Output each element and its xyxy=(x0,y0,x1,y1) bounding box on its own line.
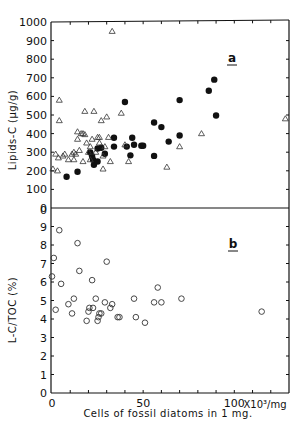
point-open-circle xyxy=(66,301,72,307)
point-open-circle xyxy=(179,296,185,302)
point-open-triangle xyxy=(82,108,88,113)
point-open-circle xyxy=(93,296,99,302)
point-filled-circle xyxy=(122,99,128,105)
point-open-triangle xyxy=(65,157,71,162)
point-filled-circle xyxy=(127,152,133,158)
point-open-triangle xyxy=(104,114,110,119)
point-open-triangle xyxy=(126,159,132,164)
point-open-circle xyxy=(84,318,90,324)
point-open-circle xyxy=(58,281,64,287)
y-tick-label-a: 100 xyxy=(26,183,47,196)
point-open-triangle xyxy=(118,110,124,115)
point-open-triangle xyxy=(106,134,112,139)
point-filled-circle xyxy=(94,158,100,164)
point-filled-circle xyxy=(140,142,146,148)
point-filled-circle xyxy=(151,153,157,159)
point-open-circle xyxy=(90,305,96,311)
y-tick-label-b: 1 xyxy=(40,369,47,382)
y-tick-label-a: 400 xyxy=(26,128,47,141)
point-open-circle xyxy=(56,227,62,233)
point-open-circle xyxy=(95,318,101,324)
point-filled-circle xyxy=(111,134,117,140)
y-tick-label-a: 900 xyxy=(26,35,47,48)
point-filled-circle xyxy=(63,174,69,180)
point-filled-circle xyxy=(213,112,219,118)
point-open-triangle xyxy=(75,136,81,141)
y-tick-label-b: 4 xyxy=(40,313,47,326)
point-filled-circle xyxy=(165,138,171,144)
point-open-circle xyxy=(51,255,57,261)
point-open-triangle xyxy=(84,140,90,145)
x-axis-title: Cells of fossil diatoms in 1 mg. xyxy=(83,408,252,419)
y-tick-label-a: 800 xyxy=(26,53,47,66)
point-open-triangle xyxy=(56,118,62,123)
y-tick-label-b: 7 xyxy=(40,258,47,271)
chart-figure: 01002003004005006007008009001000 0123456… xyxy=(0,0,306,436)
point-open-circle xyxy=(142,320,148,326)
point-filled-circle xyxy=(151,119,157,125)
point-open-triangle xyxy=(76,147,82,152)
y-tick-label-b: 3 xyxy=(40,332,47,345)
point-filled-circle xyxy=(111,143,117,149)
point-open-circle xyxy=(77,268,83,274)
point-filled-circle xyxy=(176,97,182,103)
y-axis-title-b: L-C/TOC (%) xyxy=(7,277,18,343)
point-open-triangle xyxy=(89,136,95,141)
panel-a: 01002003004005006007008009001000 xyxy=(19,16,289,215)
point-open-triangle xyxy=(98,118,104,123)
point-open-circle xyxy=(159,300,165,306)
point-open-triangle xyxy=(87,144,93,149)
y-tick-label-b: 2 xyxy=(40,350,47,363)
point-filled-circle xyxy=(158,124,164,130)
point-filled-circle xyxy=(211,76,217,82)
panel-a-top-border xyxy=(51,20,289,22)
point-open-triangle xyxy=(80,159,86,164)
point-open-triangle xyxy=(177,144,183,149)
point-open-circle xyxy=(155,285,161,291)
y-tick-label-a: 700 xyxy=(26,72,47,85)
y-tick-label-a: 200 xyxy=(26,165,47,178)
point-open-triangle xyxy=(282,116,288,121)
point-open-circle xyxy=(131,296,137,302)
y-tick-label-b: 0 xyxy=(40,204,47,217)
y-tick-label-b: 9 xyxy=(40,221,47,234)
point-filled-circle xyxy=(206,88,212,94)
y-axis-title-a: Lipids-C (μg/g) xyxy=(7,90,18,171)
point-open-triangle xyxy=(100,166,106,171)
point-open-circle xyxy=(89,277,95,283)
y-tick-label-b: 8 xyxy=(40,239,47,252)
point-open-circle xyxy=(102,300,108,306)
point-open-circle xyxy=(53,307,59,313)
x-tick-label: 0 xyxy=(49,397,56,410)
point-open-circle xyxy=(151,300,157,306)
point-open-triangle xyxy=(91,108,97,113)
panel-b: 01234567890050100 xyxy=(40,204,289,410)
panel-label-a: a xyxy=(228,51,236,65)
point-open-circle xyxy=(75,240,81,246)
point-open-triangle xyxy=(71,157,77,162)
point-open-triangle xyxy=(107,159,113,164)
point-open-circle xyxy=(133,314,139,320)
y-tick-label-a: 300 xyxy=(26,146,47,159)
point-open-triangle xyxy=(164,164,170,169)
x-unit-label: X10³/mg xyxy=(243,399,286,410)
y-tick-label-b: 6 xyxy=(40,276,47,289)
y-tick-label-b: 0 xyxy=(40,387,47,400)
point-open-circle xyxy=(49,274,55,280)
panel-label-b: b xyxy=(229,237,238,251)
point-filled-circle xyxy=(131,142,137,148)
point-open-circle xyxy=(71,296,77,302)
plot-frame xyxy=(51,20,289,393)
point-open-triangle xyxy=(96,140,102,145)
point-filled-circle xyxy=(74,169,80,175)
y-tick-label-a: 600 xyxy=(26,90,47,103)
point-open-triangle xyxy=(56,97,62,102)
point-open-circle xyxy=(104,259,110,265)
point-filled-circle xyxy=(176,132,182,138)
point-filled-circle xyxy=(129,134,135,140)
y-tick-label-a: 500 xyxy=(26,109,47,122)
point-open-circle xyxy=(69,311,75,317)
y-tick-label-b: 5 xyxy=(40,295,47,308)
point-open-triangle xyxy=(109,28,115,33)
point-open-circle xyxy=(259,309,265,315)
